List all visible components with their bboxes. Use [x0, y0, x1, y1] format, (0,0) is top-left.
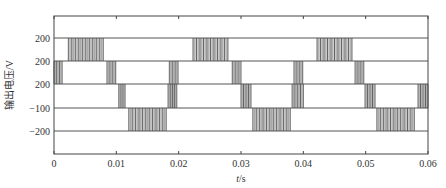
pwm-band — [168, 84, 177, 108]
pwm-band — [107, 61, 116, 84]
x-tick-label: 0.06 — [419, 158, 437, 169]
x-tick-label: 0.04 — [295, 158, 313, 169]
y-tick-label: 200 — [35, 79, 50, 90]
pwm-band — [129, 108, 166, 131]
pwm-band — [292, 84, 303, 108]
pwm-voltage-chart: 00.010.020.030.040.050.06 200200200−100−… — [0, 0, 446, 188]
pwm-band — [193, 38, 228, 61]
voltage-level-lines — [54, 38, 428, 131]
pwm-band — [294, 61, 303, 84]
y-tick-label: −100 — [29, 103, 50, 114]
y-tick-label: 200 — [35, 56, 50, 67]
x-axis-title: t/s — [236, 173, 246, 184]
x-tick-label: 0.02 — [170, 158, 188, 169]
x-axis-title-unit: /s — [239, 173, 246, 184]
svg-text:t/s: t/s — [236, 173, 246, 184]
pwm-band — [418, 84, 428, 108]
pwm-band — [365, 84, 375, 108]
pwm-band — [68, 38, 103, 61]
x-tick-label: 0 — [52, 158, 57, 169]
pwm-band — [119, 84, 125, 108]
pwm-band — [253, 108, 290, 131]
x-tick-label: 0.05 — [357, 158, 375, 169]
pwm-band — [241, 84, 251, 108]
pwm-band — [169, 61, 178, 84]
pwm-band — [377, 108, 414, 131]
y-tick-label: −200 — [29, 126, 50, 137]
y-axis-title: 输出电压/V — [3, 59, 15, 110]
x-tick-label: 0.03 — [232, 158, 250, 169]
pwm-band — [355, 61, 364, 84]
y-axis-ticks: 200200200−100−200 — [29, 33, 50, 137]
y-axis-title-text: 输出电压/V — [3, 59, 15, 110]
x-tick-label: 0.01 — [108, 158, 126, 169]
pwm-band — [54, 61, 62, 84]
pwm-band — [232, 61, 241, 84]
y-tick-label: 200 — [35, 33, 50, 44]
pwm-band — [317, 38, 352, 61]
